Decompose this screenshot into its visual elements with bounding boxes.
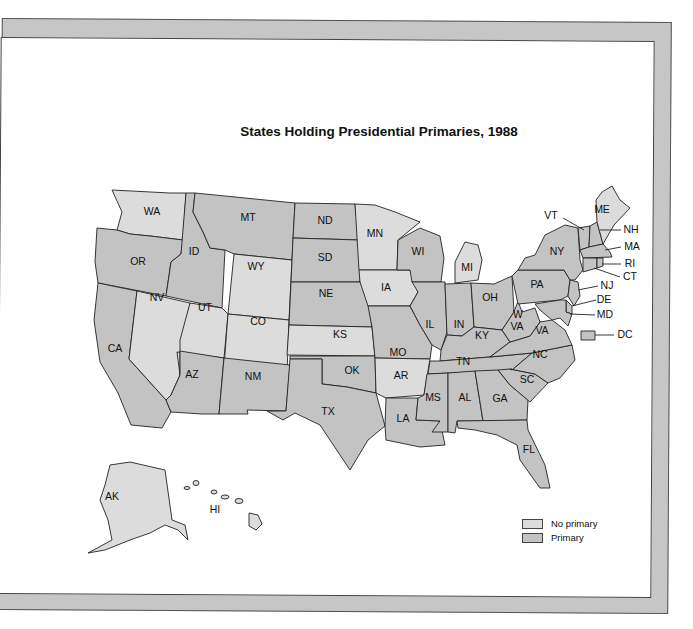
legend-swatch-primary — [522, 533, 543, 543]
state-label-in: IN — [454, 318, 465, 330]
leader-MD — [570, 314, 595, 315]
state-label-ut: UT — [198, 301, 213, 313]
state-label-ma: MA — [624, 240, 640, 252]
state-ME — [596, 186, 630, 244]
state-label-pa: PA — [530, 278, 543, 290]
state-label-wy: WY — [248, 260, 265, 272]
state-HI — [184, 481, 262, 531]
state-label-ar: AR — [394, 369, 409, 381]
state-label-ri: RI — [625, 257, 636, 269]
state-label-va: VA — [535, 324, 548, 336]
state-label-mn: MN — [367, 227, 383, 239]
state-label-nh: NH — [623, 223, 638, 235]
leader-NJ — [578, 286, 598, 290]
state-label-wv2: VA — [510, 320, 523, 332]
state-label-id: ID — [189, 245, 200, 257]
state-label-tx: TX — [321, 405, 334, 417]
state-label-mi: MI — [461, 261, 473, 273]
state-label-mt: MT — [240, 211, 256, 223]
state-KS — [287, 325, 375, 356]
state-label-sc: SC — [520, 373, 535, 385]
state-label-oh: OH — [482, 291, 498, 303]
state-label-wi: WI — [412, 245, 425, 257]
state-label-me: ME — [594, 203, 610, 215]
state-CT — [583, 258, 597, 272]
state-label-ok: OK — [344, 364, 359, 376]
state-label-ms: MS — [425, 391, 441, 403]
legend-item-no-primary: No primary — [522, 517, 597, 530]
state-label-dc: DC — [617, 328, 633, 340]
state-label-nm: NM — [245, 370, 261, 382]
state-label-ca: CA — [108, 342, 123, 354]
legend-swatch-no-primary — [522, 519, 543, 529]
legend-label-no-primary: No primary — [551, 518, 597, 529]
state-label-sd: SD — [318, 251, 333, 263]
state-label-ia: IA — [381, 281, 391, 293]
state-label-wv1: W — [513, 308, 523, 320]
state-label-nj: NJ — [601, 279, 614, 291]
state-label-ky: KY — [475, 329, 489, 341]
state-label-vt: VT — [544, 209, 558, 221]
state-label-tn: TN — [456, 355, 470, 367]
state-label-nv: NV — [150, 291, 165, 303]
state-label-az: AZ — [185, 368, 199, 380]
state-AK — [88, 462, 188, 553]
state-label-ny: NY — [550, 245, 565, 257]
state-label-fl: FL — [523, 443, 535, 455]
state-label-mo: MO — [390, 346, 407, 358]
state-DC — [581, 331, 595, 340]
map-legend: No primary Primary — [522, 517, 597, 545]
leader-CT — [594, 268, 620, 277]
state-label-de: DE — [597, 293, 612, 305]
state-label-md: MD — [597, 308, 614, 320]
state-label-or: OR — [130, 255, 146, 267]
state-label-ct: CT — [623, 270, 638, 282]
state-label-ga: GA — [492, 392, 507, 404]
legend-label-primary: Primary — [551, 532, 584, 543]
state-label-hi: HI — [210, 503, 221, 515]
state-FL — [457, 420, 550, 488]
state-label-ak: AK — [105, 490, 119, 502]
state-label-nc: NC — [532, 348, 548, 360]
state-NJ — [568, 280, 580, 306]
state-label-wa: WA — [144, 205, 161, 217]
state-label-co: CO — [250, 315, 266, 327]
state-label-la: LA — [397, 412, 410, 424]
legend-item-primary: Primary — [522, 531, 597, 544]
state-label-ks: KS — [333, 328, 347, 340]
state-NM — [219, 358, 290, 414]
state-label-nd: ND — [317, 214, 333, 226]
state-label-il: IL — [426, 318, 435, 330]
state-label-ne: NE — [319, 287, 334, 299]
state-label-al: AL — [459, 391, 472, 403]
state-RI — [597, 258, 603, 268]
